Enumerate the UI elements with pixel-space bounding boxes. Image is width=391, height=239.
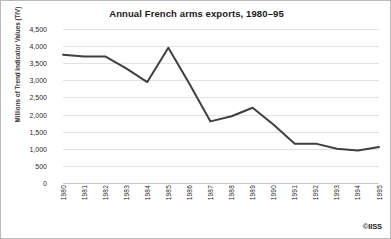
x-axis-line (63, 183, 379, 184)
x-axis-tick-label: 1983 (123, 185, 130, 200)
y-axis-tick-label: 2,000 (0, 111, 47, 118)
x-axis-tick-label: 1993 (333, 185, 340, 200)
x-axis-tick-label: 1984 (144, 185, 151, 200)
series-polyline (63, 48, 379, 151)
x-axis-tick-label: 1985 (165, 185, 172, 200)
y-axis-tick-label: 500 (0, 162, 47, 169)
y-axis-tick-label: 4,000 (0, 43, 47, 50)
x-axis-tick-label: 1995 (376, 185, 383, 200)
y-axis-tick-label: 4,500 (0, 26, 47, 33)
page-title: Annual French arms exports, 1980–95 (1, 8, 391, 19)
y-axis-tick-label: 2,500 (0, 94, 47, 101)
x-axis-tick-label: 1992 (312, 185, 319, 200)
x-axis-tick-label: 1982 (102, 185, 109, 200)
y-axis-tick-label: 3,500 (0, 60, 47, 67)
x-axis-tick-label: 1981 (81, 185, 88, 200)
chart-figure: Annual French arms exports, 1980–95 Mill… (0, 0, 391, 239)
copyright-credit: ©IISS (363, 222, 382, 231)
x-axis-tick-label: 1989 (249, 185, 256, 200)
y-axis-tick-label: 1,500 (0, 128, 47, 135)
y-axis-tick-label: 1,000 (0, 145, 47, 152)
x-axis-tick-label: 1991 (291, 185, 298, 200)
x-axis-tick-label: 1994 (354, 185, 361, 200)
x-axis-tick-label: 1990 (270, 185, 277, 200)
y-axis-tick-label: 3,000 (0, 77, 47, 84)
plot-area: 05001,0001,5002,0002,5003,0003,5004,0004… (63, 29, 379, 183)
x-axis-tick-label: 1987 (207, 185, 214, 200)
y-axis-label: Millions of Trend Indicator Values (TIV) (14, 0, 21, 140)
line-series (63, 29, 379, 183)
x-axis-tick-label: 1980 (60, 185, 67, 200)
x-axis-tick-label: 1988 (228, 185, 235, 200)
x-axis-tick-label: 1986 (186, 185, 193, 200)
y-axis-tick-label: 0 (0, 180, 47, 187)
